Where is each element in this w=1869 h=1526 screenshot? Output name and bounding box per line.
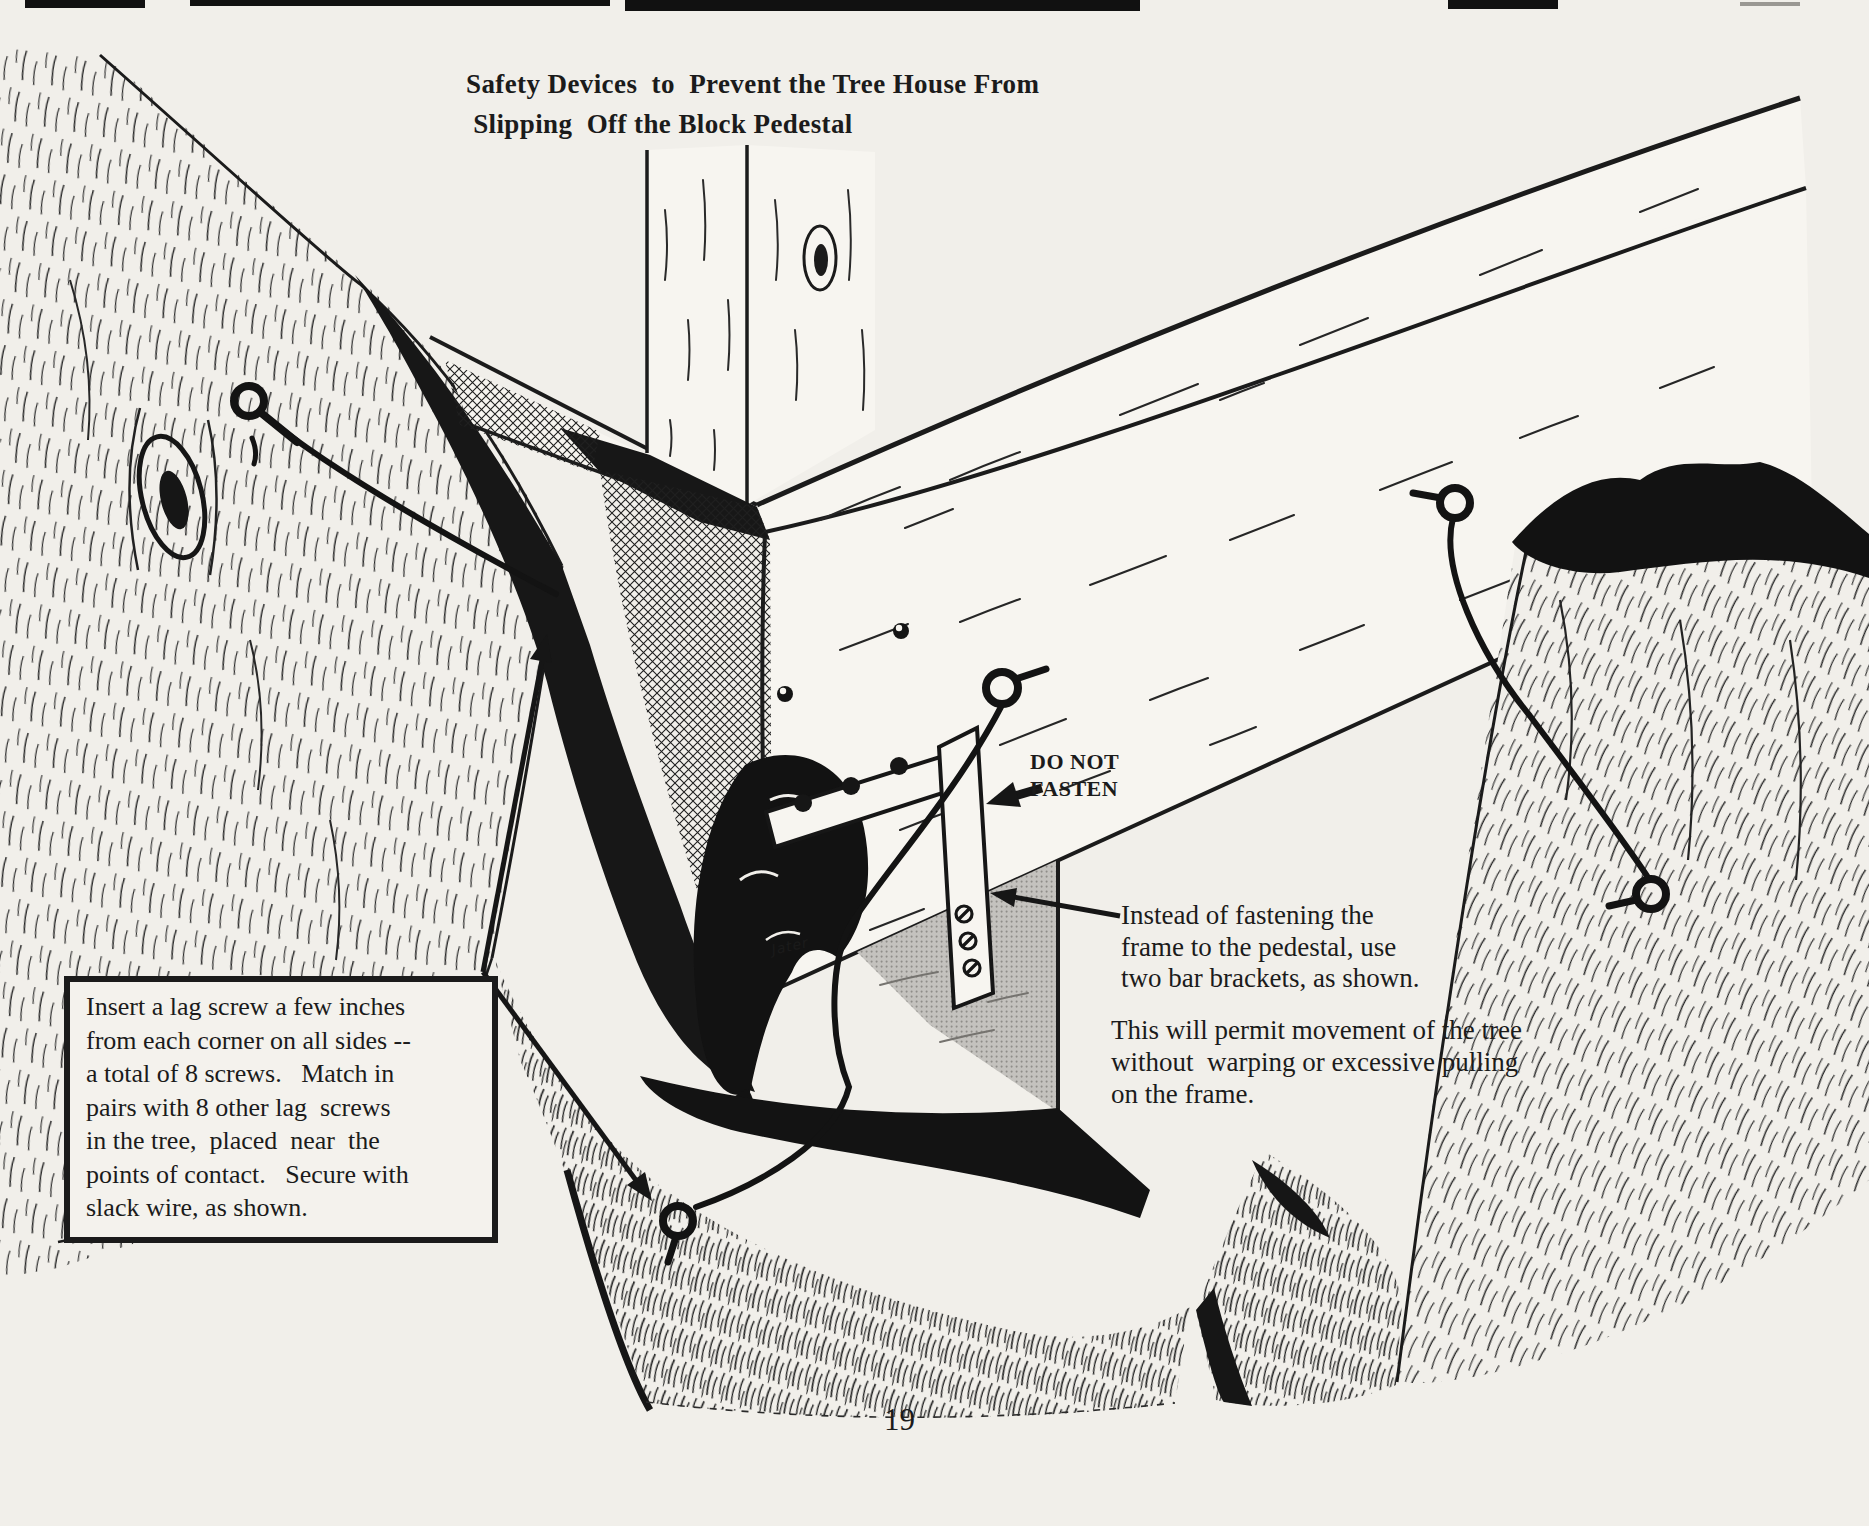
do-not-fasten-label: DO NOT FASTEN (1030, 748, 1119, 802)
caption-bar-brackets: Instead of fastening the frame to the pe… (1121, 900, 1419, 995)
book-page: Safety Devices to Prevent the Tree House… (0, 0, 1869, 1526)
caption-tree-movement: This will permit movement of the tree wi… (1111, 1014, 1522, 1110)
treehouse-illustration (0, 0, 1869, 1526)
page-number: 19 (884, 1402, 915, 1438)
figure-title: Safety Devices to Prevent the Tree House… (466, 64, 1039, 144)
instruction-box: Insert a lag screw a few inches from eac… (64, 976, 498, 1243)
